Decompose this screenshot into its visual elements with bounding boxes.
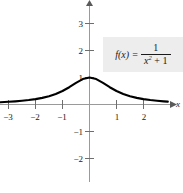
- formula-numerator: 1: [150, 43, 161, 54]
- denominator-constant: 1: [162, 55, 167, 66]
- graph-figure: −3 −2 −1 1 2 3 2 1 −1 −2 f(x) = 1 x2 + 1: [0, 0, 183, 193]
- y-axis: [86, 0, 93, 182]
- y-tick-label: 2: [79, 46, 84, 56]
- formula-lhs: f(x): [115, 50, 129, 60]
- formula-callout-box: f(x) = 1 x2 + 1: [103, 37, 183, 72]
- denominator-operator: +: [154, 55, 160, 66]
- denominator-exponent: 2: [149, 54, 152, 61]
- y-tick-label: −1: [73, 127, 83, 137]
- formula-equals-sign: =: [132, 50, 138, 60]
- x-tick-label: −2: [30, 112, 40, 122]
- function-curve: [0, 78, 167, 103]
- x-axis-label: x: [176, 99, 180, 109]
- formula-denominator: x2 + 1: [141, 55, 170, 66]
- x-tick-label: −1: [57, 112, 67, 122]
- formula-fraction: 1 x2 + 1: [141, 43, 171, 66]
- y-tick-label: 3: [79, 19, 84, 29]
- y-tick-label: −2: [73, 154, 83, 164]
- x-tick-labels: −3 −2 −1 1 2: [3, 112, 146, 122]
- x-tick-label: 2: [142, 112, 147, 122]
- y-tick-labels: 3 2 1 −1 −2: [73, 19, 83, 164]
- formula-expression: f(x) = 1 x2 + 1: [115, 43, 171, 66]
- x-axis: [0, 101, 177, 108]
- coordinate-plane-svg: −3 −2 −1 1 2 3 2 1 −1 −2: [0, 0, 183, 193]
- x-tick-label: 1: [115, 112, 120, 122]
- x-tick-label: −3: [3, 112, 13, 122]
